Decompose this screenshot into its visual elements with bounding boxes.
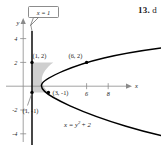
callout-pointer (31, 18, 39, 26)
y-tick-label-neg4: -4 (12, 130, 17, 137)
y-tick-label-2: 2 (14, 59, 17, 66)
point-label-6-2: (6, 2) (69, 52, 83, 60)
coordinate-plane-svg: 6 8 4 2 -2 -4 x y x = 1 (1, 2) (6, 2) (3… (0, 0, 161, 148)
point-marker-6-2 (85, 61, 88, 64)
problem-number: 13. d (138, 5, 157, 15)
problem-text: d (152, 5, 157, 15)
point-label-1-neg1: (1, -1) (23, 107, 39, 115)
problem-number-value: 13. (138, 5, 150, 15)
y-tick-label-neg2: -2 (12, 106, 17, 113)
y-axis-label: y (16, 19, 20, 26)
x-tick-label-8: 8 (107, 90, 111, 97)
point-leader-1-neg1 (28, 94, 32, 106)
callout-label-x-equals-1: x = 1 (36, 9, 51, 16)
point-marker-1-2 (30, 61, 33, 64)
point-label-3-neg1: (3, -1) (53, 89, 69, 97)
point-label-1-2: (1, 2) (33, 52, 47, 60)
equation-tail: + 2 (81, 121, 91, 128)
point-marker-3-neg1 (47, 91, 50, 94)
x-axis-arrow (126, 84, 132, 89)
equation-base: x = y (63, 121, 79, 128)
parabola-equation-label: x = y2+ 2 (63, 120, 91, 128)
x-axis-label: x (134, 82, 138, 89)
callout-leader-line (31, 25, 32, 31)
x-tick-label-6: 6 (85, 90, 89, 97)
y-tick-label-4: 4 (14, 35, 17, 42)
y-axis-arrow (21, 18, 26, 24)
parabola-region-figure: 6 8 4 2 -2 -4 x y x = 1 (1, 2) (6, 2) (3… (0, 0, 161, 148)
